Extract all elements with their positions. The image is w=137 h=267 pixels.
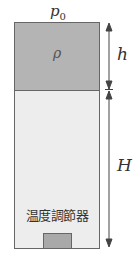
dimension-arrows bbox=[0, 0, 137, 267]
arrow-down-icon bbox=[106, 81, 112, 89]
gas-height-label: H bbox=[117, 155, 132, 175]
arrow-down-icon bbox=[106, 239, 112, 247]
arrow-up-icon bbox=[106, 91, 112, 99]
arrow-up-icon bbox=[106, 23, 112, 31]
liquid-height-label: h bbox=[117, 44, 128, 64]
